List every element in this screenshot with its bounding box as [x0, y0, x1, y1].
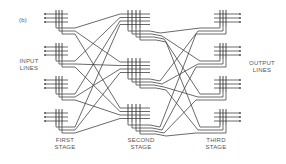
input-link [196, 26, 226, 34]
input-link [196, 125, 226, 133]
input-link [198, 26, 223, 31]
output-link [62, 26, 75, 34]
input-link [196, 59, 226, 67]
output-terminal-dot [239, 87, 241, 89]
output-link [128, 122, 160, 127]
output-terminal-dot [239, 50, 241, 52]
input-link [198, 59, 223, 64]
output-link [132, 76, 162, 84]
output-link [140, 28, 166, 42]
output-terminal-dot [239, 112, 241, 114]
output-terminal-dot [239, 46, 241, 48]
interstage-link [75, 25, 120, 128]
output-link [59, 26, 75, 31]
interstage-link [75, 73, 120, 131]
interstage-link [75, 14, 120, 28]
output-link [62, 92, 75, 100]
output-terminal-dot [239, 54, 241, 56]
switching-network-graphic [0, 0, 286, 164]
output-terminal-dot [239, 83, 241, 85]
interstage-link [166, 133, 196, 136]
output-link [62, 59, 75, 67]
interstage-link [75, 119, 120, 134]
output-link [128, 76, 160, 81]
interstage-link [166, 42, 200, 127]
output-link [59, 125, 75, 130]
interstage-link [75, 64, 120, 66]
interstage-link [160, 34, 196, 127]
output-link [62, 125, 75, 133]
interstage-link [75, 67, 120, 112]
output-link [132, 122, 162, 130]
output-link [59, 92, 75, 97]
output-terminal-dot [239, 116, 241, 118]
input-link [200, 92, 220, 94]
interstage-link [164, 39, 200, 94]
output-terminal-dot [239, 21, 241, 23]
output-link [128, 28, 160, 33]
input-link [200, 59, 220, 61]
interstage-link [162, 36, 200, 61]
interstage-link [75, 34, 120, 108]
input-link [198, 125, 223, 130]
input-link [200, 26, 220, 28]
input-link [200, 125, 220, 127]
output-terminal-dot [239, 17, 241, 19]
output-terminal-dot [239, 120, 241, 122]
input-link [198, 92, 223, 97]
output-link [59, 59, 75, 64]
interstage-link [160, 28, 200, 33]
interstage-link [75, 100, 120, 115]
three-stage-switching-network-diagram: (b) INPUT LINES OUTPUT LINES FIRST STAGE… [0, 0, 286, 164]
output-terminal-dot [239, 79, 241, 81]
output-link [132, 28, 162, 36]
output-terminal-dot [239, 13, 241, 15]
input-link [196, 92, 226, 100]
